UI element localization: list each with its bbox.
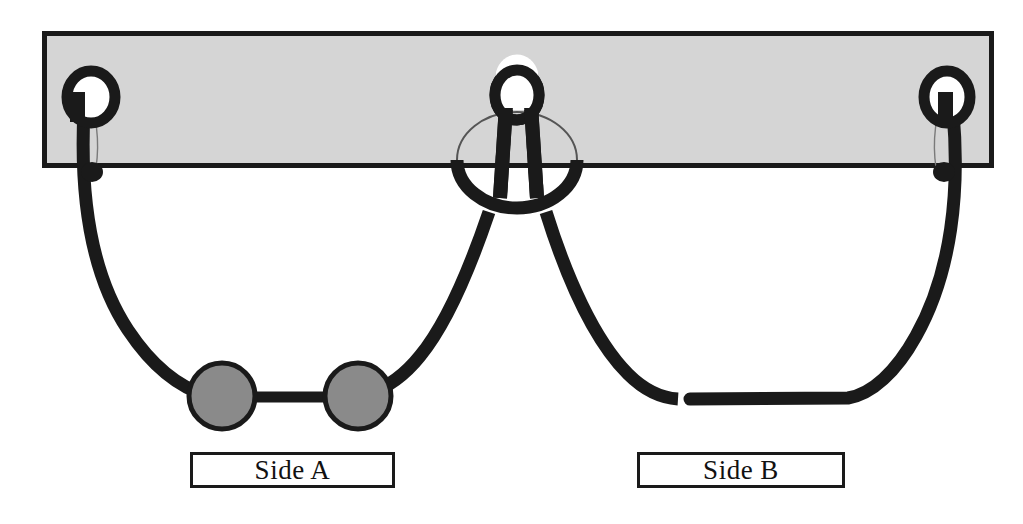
suture-diagram-figure: Side A Side B [0,0,1023,524]
label-side-a: Side A [190,452,395,488]
left-strand-inner [368,212,489,394]
right-exit-knot-nub [933,162,955,182]
left-exit-knot-nub [81,162,103,182]
center-bar-left-overlay [500,106,506,198]
label-side-b: Side B [637,452,845,488]
right-strand-inner [546,212,678,399]
center-bar-right-overlay [531,106,537,198]
knot-bead-right [325,363,391,429]
left-ring-tail-stub [70,92,85,122]
right-ring-tail-stub [938,92,953,122]
label-side-b-text: Side B [703,457,779,484]
label-side-a-text: Side A [255,457,331,484]
diagram-canvas [0,0,1023,524]
knot-bead-left [189,363,255,429]
